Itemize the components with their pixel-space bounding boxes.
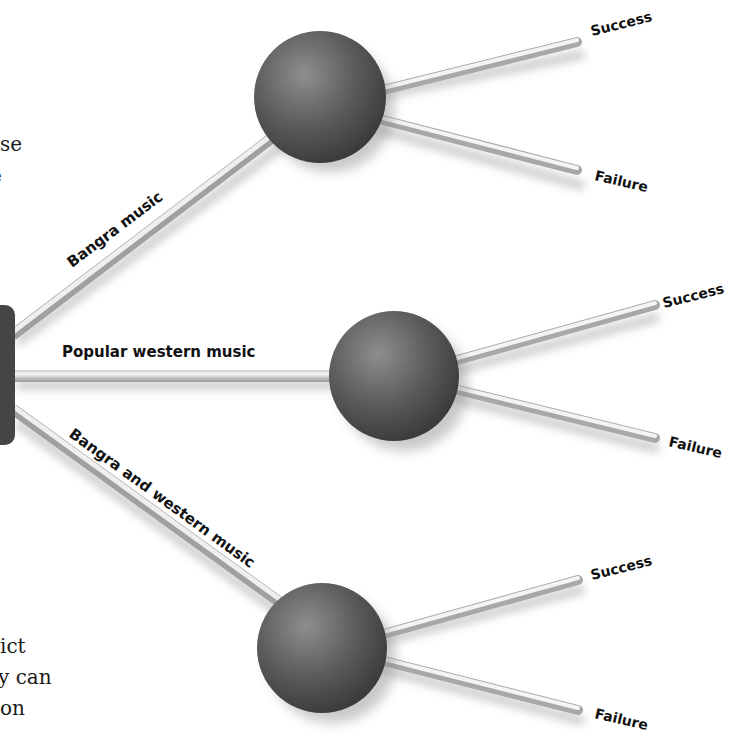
branch-label-western: Popular western music [62,343,255,361]
branch-label-bangra-western: Bangra and western music [66,425,259,572]
outcome-failure-1: Failure [593,167,649,195]
chance-node-western [329,311,459,441]
branch-rod-bangra-western [14,407,285,606]
decision-tree: Bangra music Popular western music Bangr… [0,0,734,737]
chance-node-bangra-western [257,583,387,713]
outcome-success-2: Success [661,280,726,311]
branch-rod-western [14,370,334,382]
chance-node-bangra [254,31,386,163]
outcome-success-1: Success [589,8,654,39]
branch-rod-bangra [14,125,285,334]
root-decision-node [0,305,15,445]
outcome-failure-3: Failure [593,705,649,733]
outcome-failure-2: Failure [667,433,723,461]
outcome-success-3: Success [589,552,654,583]
